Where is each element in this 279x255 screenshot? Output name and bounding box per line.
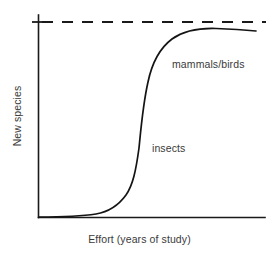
axes-group [39,15,266,218]
annotation-mammals-birds: mammals/birds [172,58,244,70]
chart-figure: mammals/birds insects Effort (years of s… [0,0,279,255]
annotation-insects: insects [152,142,185,154]
curve-group [39,28,256,217]
y-axis-title: New species [11,66,23,166]
chart-plot-area [0,0,279,255]
x-axis-title: Effort (years of study) [0,233,279,245]
species-accumulation-curve [39,28,256,217]
